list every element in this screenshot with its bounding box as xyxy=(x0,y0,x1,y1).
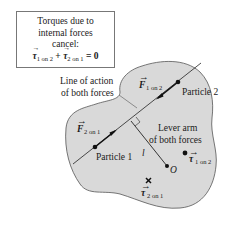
force-2-on-1-subscript: 2 on 1 xyxy=(84,128,100,135)
tau-2-on-1-subscript: 2 on 1 xyxy=(67,55,83,62)
torque-sum-equation: τ1 on 2 + τ2 on 1 = 0 xyxy=(17,51,114,65)
vector-arrow-icon: → xyxy=(189,147,199,157)
particle-2-label: Particle 2 xyxy=(182,87,218,97)
caption-line-2: internal forces xyxy=(17,28,114,40)
torque-2-on-1-subscript: 2 on 1 xyxy=(147,192,163,199)
line-of-action-label-1: Line of action xyxy=(60,76,114,86)
particle-2-dot xyxy=(176,80,181,85)
plus-sign: + xyxy=(55,51,60,61)
vector-arrow-icon: → xyxy=(77,116,87,126)
particle-1-label: Particle 1 xyxy=(96,152,132,162)
torque-out-of-page-icon xyxy=(183,151,188,156)
vector-arrow-icon: → xyxy=(141,181,151,191)
torque-cancel-caption-box: Torques due to internal forces cancel: τ… xyxy=(16,11,115,68)
vector-arrow-icon: → xyxy=(139,72,149,82)
caption-line-1: Torques due to xyxy=(17,16,114,28)
particle-1-dot xyxy=(93,145,98,150)
lever-arm-label-2: of both forces xyxy=(149,135,202,145)
torque-1-on-2-subscript: 1 on 2 xyxy=(195,158,211,165)
lever-arm-label-1: Lever arm xyxy=(158,123,198,133)
line-of-action-label-2: of both forces xyxy=(61,88,114,98)
tau-1-on-2-subscript: 1 on 2 xyxy=(37,55,53,62)
equals-sign: = xyxy=(86,51,91,61)
force-1-on-2-subscript: 1 on 2 xyxy=(146,84,162,91)
lever-symbol: l xyxy=(142,148,145,158)
tau-1-on-2-symbol: τ xyxy=(32,51,36,63)
tau-2-on-1-symbol: τ xyxy=(63,51,67,63)
origin-label: O xyxy=(170,165,177,175)
zero-vector: 0 xyxy=(94,51,99,61)
origin-dot xyxy=(165,164,169,168)
